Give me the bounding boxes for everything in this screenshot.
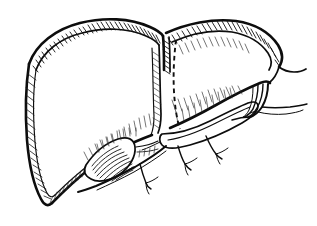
liver-illustration: Hand-drawn ink illustration of a human l… (0, 0, 317, 226)
falciform-notch-right-line (169, 37, 170, 72)
illustration-root: Hand-drawn ink illustration of a human l… (0, 0, 317, 226)
